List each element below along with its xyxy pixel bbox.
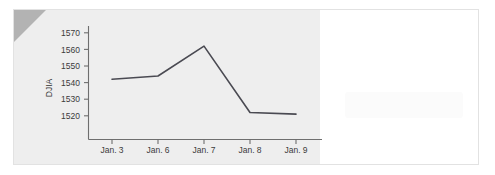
y-tick-label: 1560 (61, 45, 80, 55)
x-tick-label: Jan. 6 (146, 145, 169, 155)
djia-line-chart: 1570 1560 1550 1540 1530 1520 DJIA Jan. … (0, 0, 495, 175)
y-axis-tick-labels: 1570 1560 1550 1540 1530 1520 (61, 28, 80, 121)
y-tick-label: 1530 (61, 94, 80, 104)
x-tick-label: Jan. 3 (100, 145, 123, 155)
y-axis-title: DJIA (44, 78, 54, 97)
x-axis-tick-labels: Jan. 3 Jan. 6 Jan. 7 Jan. 8 Jan. 9 (100, 145, 307, 155)
y-tick-label: 1540 (61, 78, 80, 88)
x-tick-label: Jan. 7 (192, 145, 215, 155)
x-tick-label: Jan. 9 (284, 145, 307, 155)
djia-series-line (112, 46, 296, 114)
x-tick-label: Jan. 8 (238, 145, 261, 155)
y-tick-label: 1520 (61, 111, 80, 121)
x-axis-ticks (112, 140, 296, 145)
y-tick-label: 1570 (61, 28, 80, 38)
y-tick-label: 1550 (61, 61, 80, 71)
y-axis-ticks (84, 33, 89, 116)
chart-screenshot: 1570 1560 1550 1540 1530 1520 DJIA Jan. … (0, 0, 495, 175)
